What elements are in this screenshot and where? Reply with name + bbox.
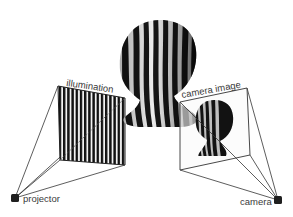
projector-icon [11, 194, 19, 202]
camera-image-panel [180, 88, 278, 200]
camera-label: camera [240, 196, 272, 207]
projector-label: projector [23, 193, 60, 204]
illumination-panel [58, 86, 125, 165]
camera-icon [274, 196, 282, 204]
structured-light-diagram: illumination [0, 0, 293, 217]
